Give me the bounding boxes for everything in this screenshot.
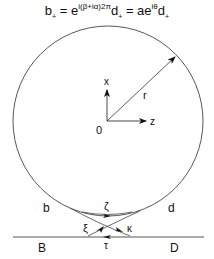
bus-right-label: D xyxy=(170,241,179,255)
xi-arrowhead xyxy=(96,226,104,233)
diagram-canvas: x z 0 r b d B D ζ ξ κ τ xyxy=(0,0,214,259)
diagram: b+ = ei(β+iα)2πd+ = aeiθd+ x z 0 r b xyxy=(0,0,214,259)
tau-label: τ xyxy=(104,240,108,251)
x-axis-label: x xyxy=(104,76,109,87)
coupler-line-right xyxy=(88,211,140,236)
bus-left-label: B xyxy=(38,241,46,255)
z-axis-label: z xyxy=(150,116,155,127)
radius-arrow xyxy=(107,57,175,121)
kappa-arrowhead xyxy=(115,227,123,232)
xi-label: ξ xyxy=(83,222,88,234)
origin-label: 0 xyxy=(96,124,102,136)
zeta-label: ζ xyxy=(104,200,109,212)
kappa-label: κ xyxy=(127,223,133,234)
coupler-line-left xyxy=(70,208,130,236)
ring-right-label: d xyxy=(168,201,175,215)
ring-left-label: b xyxy=(43,201,50,215)
radius-label: r xyxy=(143,89,147,101)
